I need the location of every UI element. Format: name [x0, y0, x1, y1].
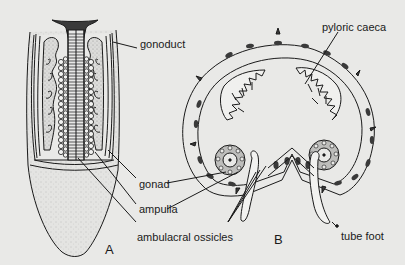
- label-ambulacral-ossicles: ambulacral ossicles: [137, 232, 233, 243]
- diagram: gonoduct pyloric caeca gonad ampulla amb…: [0, 0, 405, 265]
- label-pyloric-caeca: pyloric caeca: [322, 22, 386, 33]
- figure-b: [167, 28, 376, 227]
- diagram-artwork: [0, 0, 405, 265]
- panel-label-a: A: [105, 243, 114, 256]
- gonad-left: [215, 145, 245, 175]
- label-gonad: gonad: [139, 179, 170, 190]
- figure-a: [27, 20, 137, 257]
- label-tube-foot: tube foot: [341, 231, 384, 242]
- label-ampulla: ampulla: [139, 204, 178, 215]
- label-gonoduct: gonoduct: [140, 39, 185, 50]
- panel-label-b: B: [274, 233, 283, 246]
